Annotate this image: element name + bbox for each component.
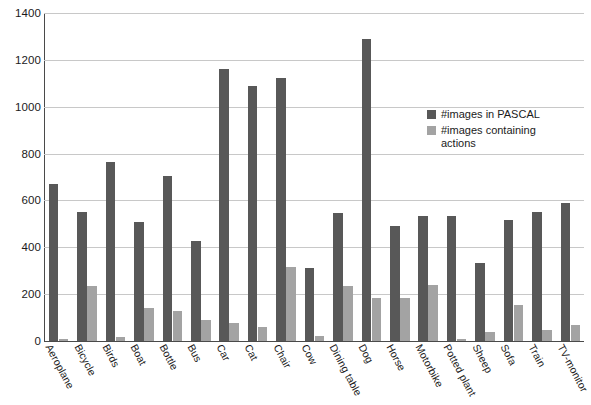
bar-group: [362, 13, 382, 341]
bar: [191, 241, 201, 341]
x-axis-tick-label: Motorbike: [413, 342, 446, 389]
bar: [514, 305, 524, 341]
y-axis-tick-label: 1400: [3, 7, 41, 19]
bar: [428, 285, 438, 341]
bar-group: [418, 13, 438, 341]
bar-group: [390, 13, 410, 341]
y-axis-tick-label: 1200: [3, 54, 41, 66]
bar: [49, 184, 59, 341]
bar-group: [49, 13, 69, 341]
bar: [475, 263, 485, 341]
y-axis-tick-label: 600: [3, 194, 41, 206]
bar: [144, 308, 154, 341]
y-axis-tick-label: 800: [3, 148, 41, 160]
legend-item-images-containing-actions: #images containing actions: [427, 124, 587, 150]
bar-group: [134, 13, 154, 341]
bar-group: [475, 13, 495, 341]
bar: [258, 327, 268, 341]
bar: [561, 203, 571, 341]
bar: [372, 298, 382, 341]
x-axis-tick-label: Birds: [100, 342, 122, 369]
x-axis-tick-label: Horse: [385, 342, 409, 373]
x-axis-tick-label: Aeroplane: [44, 342, 77, 391]
x-axis-tick-label: Cow: [299, 342, 320, 366]
bar-group: [504, 13, 524, 341]
bar: [248, 86, 258, 341]
bar: [333, 213, 343, 341]
bar: [87, 286, 97, 341]
bar-group: [77, 13, 97, 341]
bar-group: [276, 13, 296, 341]
bar: [276, 78, 286, 341]
x-axis-tick-label: Bottle: [157, 342, 180, 372]
legend-label: #images containing actions: [441, 124, 569, 150]
chart-legend: #images in PASCAL #images containing act…: [427, 108, 587, 153]
bar: [59, 339, 69, 341]
bar-group: [561, 13, 581, 341]
bar: [457, 339, 467, 341]
bar: [315, 336, 325, 341]
bar: [343, 286, 353, 341]
bar-group: [248, 13, 268, 341]
x-axis-tick-label: Car: [214, 342, 233, 363]
bar: [134, 222, 144, 341]
bar: [390, 226, 400, 341]
bar-group: [106, 13, 126, 341]
y-axis-tick-label: 400: [3, 241, 41, 253]
y-axis-labels: 0200400600800100012001400: [0, 13, 41, 341]
plot-area: [44, 13, 584, 341]
bar: [229, 323, 239, 341]
x-axis-tick-label: Bicycle: [72, 342, 99, 378]
x-axis-tick-label: Sheep: [470, 342, 495, 375]
y-axis-tick-label: 1000: [3, 101, 41, 113]
legend-item-images-in-pascal: #images in PASCAL: [427, 108, 587, 121]
bar: [485, 332, 495, 341]
bar-chart: 0200400600800100012001400 AeroplaneBicyc…: [0, 0, 591, 405]
x-axis-tick-label: Dog: [356, 342, 376, 365]
bar-group: [532, 13, 552, 341]
bar: [447, 216, 457, 341]
bar: [362, 39, 372, 341]
bar: [571, 325, 581, 341]
legend-swatch-icon-dark: [427, 110, 436, 119]
bar: [201, 320, 211, 341]
bar-group: [333, 13, 353, 341]
bar: [116, 337, 126, 341]
bar: [532, 212, 542, 341]
bar: [418, 216, 428, 341]
bar: [286, 267, 296, 341]
x-axis-tick-label: Boat: [129, 342, 150, 367]
x-axis-tick-label: Cat: [243, 342, 261, 362]
legend-label: #images in PASCAL: [441, 108, 540, 121]
y-axis-tick-label: 0: [3, 335, 41, 347]
x-axis-labels: AeroplaneBicycleBirdsBoatBottleBusCarCat…: [44, 342, 584, 405]
bar: [219, 69, 229, 341]
bar-group: [163, 13, 183, 341]
x-axis-tick-label: TV-monitor: [555, 342, 590, 394]
bar: [106, 162, 116, 341]
bar: [504, 220, 514, 341]
x-axis-tick-label: Bus: [186, 342, 205, 364]
bar: [173, 311, 183, 341]
bar-group: [219, 13, 239, 341]
bars-layer: [44, 13, 584, 341]
bar: [163, 176, 173, 341]
x-axis-tick-label: Train: [527, 342, 549, 369]
y-axis-tick-label: 200: [3, 288, 41, 300]
legend-swatch-icon-light: [427, 126, 436, 135]
x-axis-tick-label: Chair: [271, 342, 294, 370]
bar-group: [191, 13, 211, 341]
x-axis-tick-label: Sofa: [498, 342, 519, 367]
bar-group: [305, 13, 325, 341]
bar: [542, 330, 552, 341]
bar: [77, 212, 87, 341]
bar-group: [447, 13, 467, 341]
bar: [400, 298, 410, 341]
bar: [305, 268, 315, 341]
